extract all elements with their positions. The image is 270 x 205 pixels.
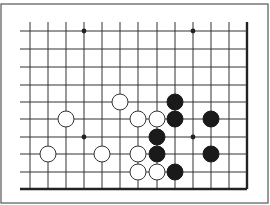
white-stone xyxy=(149,111,165,127)
black-stone xyxy=(149,129,165,145)
star-point xyxy=(82,29,87,34)
white-stone xyxy=(40,146,56,162)
go-board xyxy=(0,0,270,205)
black-stone xyxy=(149,146,165,162)
black-stone xyxy=(203,111,219,127)
black-stone xyxy=(167,94,183,110)
black-stone xyxy=(167,111,183,127)
star-point xyxy=(191,135,196,140)
black-stone xyxy=(203,146,219,162)
star-point xyxy=(82,135,87,140)
white-stone xyxy=(112,94,128,110)
white-stone xyxy=(130,111,146,127)
white-stone xyxy=(58,111,74,127)
white-stone xyxy=(94,146,110,162)
white-stone xyxy=(130,146,146,162)
white-stone xyxy=(149,164,165,180)
star-point xyxy=(191,29,196,34)
black-stone xyxy=(167,164,183,180)
go-diagram xyxy=(0,0,270,205)
white-stone xyxy=(130,164,146,180)
